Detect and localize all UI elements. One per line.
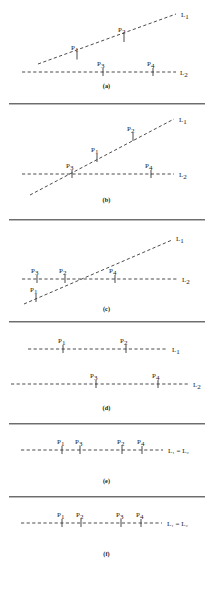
point-label-p1: P1 — [58, 337, 66, 347]
panel-e-diagram: P1 P3 P2 P4 L₁ = L₂ — [0, 425, 213, 496]
panel-d: P1 P2 P3 P4 L1 L2 (d) — [0, 323, 213, 423]
point-label-p2: P2 — [120, 337, 128, 347]
line-l1 — [24, 240, 172, 304]
line-label-l2: L2 — [182, 276, 190, 286]
panel-caption-f: (f) — [0, 550, 213, 557]
line-label-l2: L2 — [179, 171, 187, 181]
point-label-p1: P1 — [57, 511, 65, 521]
panel-a: P1 P2 P3 P4 L1 L2 (a) — [0, 0, 213, 104]
line-label-l1: L1 — [172, 346, 180, 356]
line-l1 — [30, 119, 174, 195]
point-label-p3: P3 — [97, 60, 105, 70]
figure-sheet: P1 P2 P3 P4 L1 L2 (a) P3 P1 P2 P4 L1 L2 … — [0, 0, 213, 590]
panel-f-diagram: P1 P2 P3 P4 L₁ = L₂ — [0, 498, 213, 590]
point-label-p4: P4 — [147, 60, 155, 70]
point-label-p3: P3 — [90, 372, 98, 382]
point-label-p3: P3 — [116, 511, 124, 521]
point-label-p4: P4 — [152, 372, 160, 382]
line-label-l1: L1 — [181, 11, 189, 21]
line-l1 — [38, 14, 176, 64]
panel-b: P3 P1 P2 P4 L1 L2 (b) — [0, 105, 213, 220]
point-label-p3: P3 — [31, 267, 39, 277]
line-label-l1-equals-l2: L₁ = L₂ — [168, 447, 189, 455]
point-label-p1: P1 — [57, 438, 65, 448]
point-label-p2: P2 — [117, 438, 125, 448]
point-label-p3: P3 — [66, 162, 74, 172]
point-label-p1: P1 — [91, 146, 99, 156]
panel-caption-e: (e) — [0, 477, 213, 484]
panel-caption-c: (c) — [0, 305, 213, 312]
point-label-p1: P1 — [30, 286, 38, 296]
point-label-p3: P3 — [75, 438, 83, 448]
point-label-p4: P4 — [136, 511, 144, 521]
panel-caption-a: (a) — [0, 82, 213, 89]
line-label-l2: L2 — [193, 381, 201, 391]
point-label-p2: P2 — [127, 125, 135, 135]
panel-c: P3 P1 P2 P4 L1 L2 (c) — [0, 221, 213, 322]
panel-f: P1 P2 P3 P4 L₁ = L₂ (f) — [0, 498, 213, 590]
panel-caption-d: (d) — [0, 404, 213, 411]
line-label-l1: L1 — [176, 235, 184, 245]
point-label-p2: P2 — [59, 267, 67, 277]
line-label-l2: L2 — [180, 69, 188, 79]
point-label-p2: P2 — [76, 511, 84, 521]
point-label-p4: P4 — [109, 267, 117, 277]
point-label-p4: P4 — [145, 162, 153, 172]
point-label-p1: P1 — [71, 44, 79, 54]
line-label-l1-equals-l2: L₁ = L₂ — [167, 520, 188, 528]
panel-e: P1 P3 P2 P4 L₁ = L₂ (e) — [0, 425, 213, 496]
line-label-l1: L1 — [179, 116, 187, 126]
panel-caption-b: (b) — [0, 196, 213, 203]
point-label-p4: P4 — [137, 438, 145, 448]
